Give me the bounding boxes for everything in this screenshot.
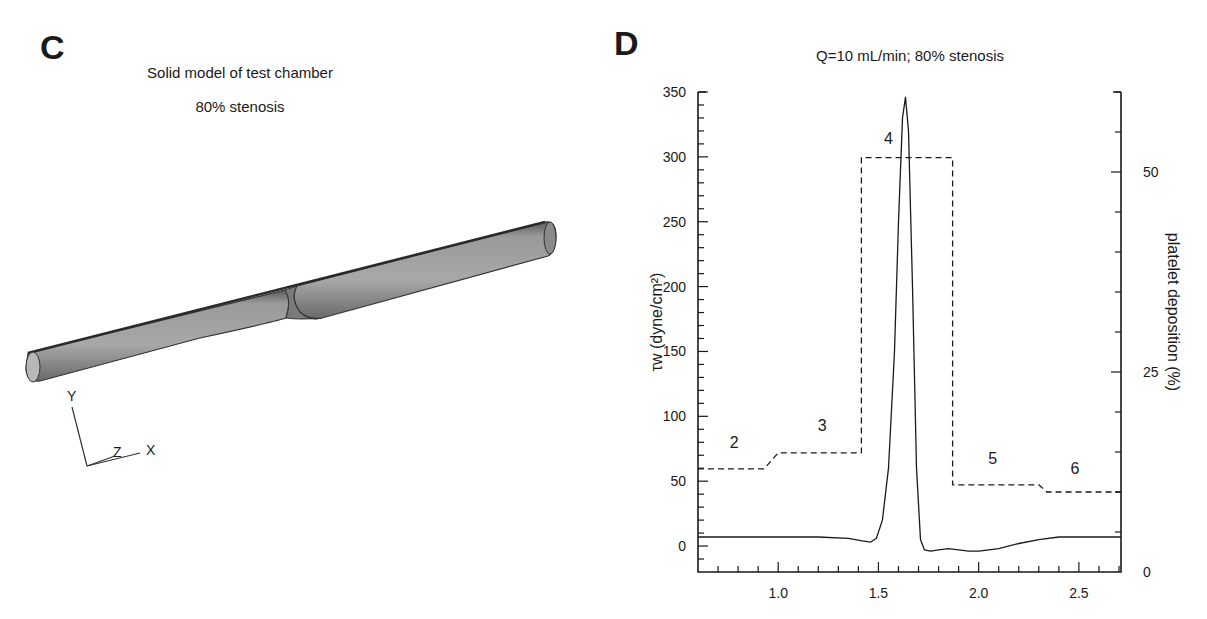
- shear-stress-chart: 0501001502002503003501.01.52.02.502550τw…: [648, 84, 1182, 601]
- y2-tick-label: 50: [1143, 164, 1159, 180]
- x-tick-label: 1.0: [768, 585, 788, 601]
- solid-model-tube: [26, 222, 556, 382]
- segment-label: 6: [1070, 460, 1079, 477]
- figure-canvas: Y Z X 0501001502002503003501.01.52.02.50…: [0, 0, 1207, 619]
- y-tick-label: 200: [663, 279, 687, 295]
- y-tick-label: 150: [663, 343, 687, 359]
- y-tick-label: 0: [678, 538, 686, 554]
- y-tick-label: 350: [663, 84, 687, 100]
- x-tick-label: 2.0: [969, 585, 989, 601]
- y-axis-title: τw (dyne/cm²): [648, 273, 665, 372]
- segment-label: 2: [730, 434, 739, 451]
- segment-label: 5: [988, 450, 997, 467]
- triad-y-label: Y: [67, 388, 77, 404]
- triad-z-label: Z: [113, 444, 122, 460]
- y-tick-label: 100: [663, 408, 687, 424]
- x-tick-label: 2.5: [1069, 585, 1089, 601]
- segment-label: 3: [818, 417, 827, 434]
- y-tick-label: 50: [670, 473, 686, 489]
- y-tick-label: 250: [663, 214, 687, 230]
- platelet-deposition-line: [698, 158, 1121, 492]
- axes-triad-icon: Y Z X: [67, 388, 156, 466]
- triad-x-label: X: [146, 442, 156, 458]
- x-tick-label: 1.5: [869, 585, 889, 601]
- segment-label: 4: [884, 130, 893, 147]
- y2-tick-label: 0: [1143, 564, 1151, 580]
- y2-tick-label: 25: [1143, 364, 1159, 380]
- y2-axis-title: platelet deposition (%): [1165, 233, 1182, 391]
- shear-stress-line: [698, 97, 1121, 551]
- y-tick-label: 300: [663, 149, 687, 165]
